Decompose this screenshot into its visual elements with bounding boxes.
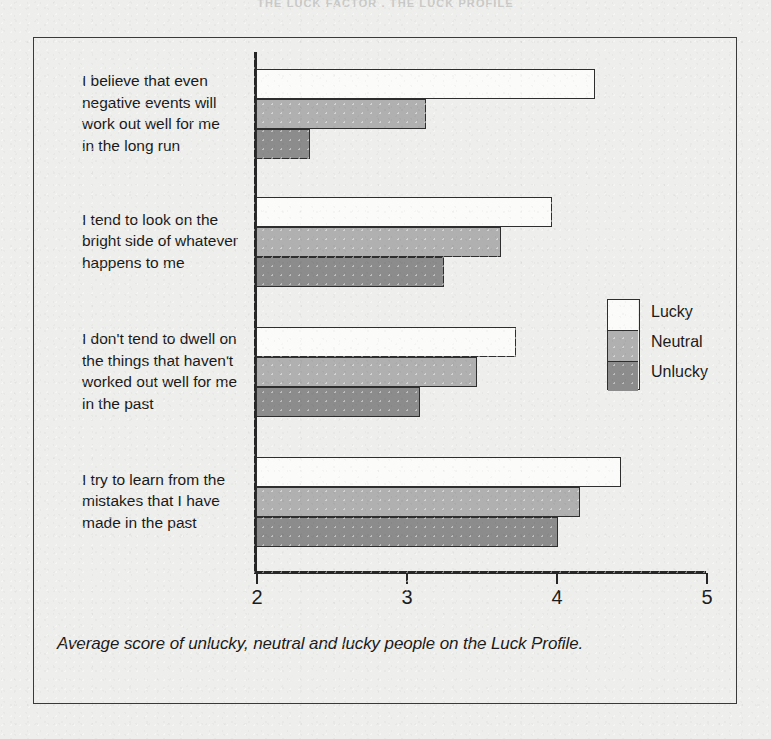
figure-caption: Average score of unlucky, neutral and lu… — [57, 634, 717, 654]
legend-label-unlucky: Unlucky — [651, 363, 708, 381]
legend-swatch-neutral — [608, 330, 638, 360]
category-label-line: bright side of whatever — [82, 230, 258, 252]
bar-neutral[interactable] — [256, 99, 426, 129]
bar-unlucky[interactable] — [256, 517, 558, 547]
legend-label-lucky: Lucky — [651, 303, 693, 321]
axis-tick-2 — [256, 573, 258, 584]
axis-tick-label-2: 2 — [242, 586, 272, 609]
axis-tick-label-4: 4 — [542, 586, 572, 609]
bar-lucky[interactable] — [256, 327, 516, 357]
category-label-line: I try to learn from the — [82, 469, 258, 491]
category-label-line: mistakes that I have — [82, 490, 258, 512]
category-label-line: in the long run — [82, 135, 258, 157]
category-label-line: I don't tend to dwell on — [82, 328, 258, 350]
legend-label-neutral: Neutral — [651, 333, 703, 351]
bar-neutral[interactable] — [256, 227, 501, 257]
category-label-line: happens to me — [82, 252, 258, 274]
axis-tick-5 — [706, 573, 708, 584]
category-label-line: worked out well for me — [82, 371, 258, 393]
category-label: I tend to look on thebright side of what… — [82, 209, 258, 274]
bar-lucky[interactable] — [256, 457, 621, 487]
category-label-line: made in the past — [82, 512, 258, 534]
category-label-line: I believe that even — [82, 70, 258, 92]
category-label-line: I tend to look on the — [82, 209, 258, 231]
legend-swatch-column — [607, 299, 640, 390]
category-label-line: work out well for me — [82, 113, 258, 135]
bar-group — [256, 197, 716, 287]
bar-group — [256, 457, 716, 547]
value-axis-line — [254, 571, 706, 574]
category-label: I believe that evennegative events willw… — [82, 70, 258, 156]
bar-neutral[interactable] — [256, 487, 580, 517]
bar-unlucky[interactable] — [256, 129, 310, 159]
running-header: THE LUCK FACTOR . THE LUCK PROFILE — [0, 0, 771, 7]
bar-lucky[interactable] — [256, 197, 552, 227]
axis-tick-4 — [556, 573, 558, 584]
bar-lucky[interactable] — [256, 69, 595, 99]
category-label-line: negative events will — [82, 92, 258, 114]
category-label: I don't tend to dwell onthe things that … — [82, 328, 258, 414]
axis-tick-3 — [406, 573, 408, 584]
axis-tick-label-3: 3 — [392, 586, 422, 609]
category-label: I try to learn from themistakes that I h… — [82, 469, 258, 534]
legend-swatch-unlucky — [608, 361, 638, 391]
bar-unlucky[interactable] — [256, 257, 444, 287]
bar-group — [256, 69, 716, 159]
chart-legend: Lucky Neutral Unlucky — [607, 299, 727, 392]
legend-swatch-lucky — [608, 300, 638, 330]
category-label-line: in the past — [82, 393, 258, 415]
category-label-line: the things that haven't — [82, 350, 258, 372]
figure-frame: 2345 I believe that evennegative events … — [33, 37, 737, 704]
bar-neutral[interactable] — [256, 357, 477, 387]
axis-tick-label-5: 5 — [692, 586, 722, 609]
bar-unlucky[interactable] — [256, 387, 420, 417]
